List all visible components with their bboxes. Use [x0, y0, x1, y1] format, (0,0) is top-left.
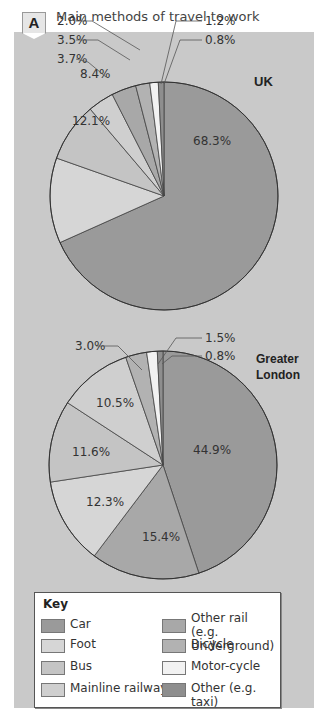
- legend-item-bicycle: Bicycle: [162, 637, 234, 653]
- legend-item-car: Car: [41, 617, 91, 633]
- slice-label: 44.9%: [193, 443, 231, 457]
- legend-title: Key: [43, 597, 68, 611]
- badge-pointer: [22, 33, 46, 39]
- swatch-bicycle: [162, 639, 186, 653]
- slice-label: 11.6%: [72, 445, 110, 459]
- legend: Key Car Foot Bus Mainline railway Other …: [34, 592, 281, 708]
- slice-label-outside: 1.2%: [205, 14, 236, 28]
- pie-uk-title: UK: [254, 74, 273, 89]
- pie-greater-london: 44.9%15.4%12.3%11.6%10.5%3.0%1.5%0.8%: [49, 331, 277, 579]
- legend-item-motorcycle: Motor-cycle: [162, 659, 260, 675]
- slice-label-outside: 3.7%: [57, 52, 88, 66]
- legend-item-foot: Foot: [41, 637, 96, 653]
- slice-label: 12.3%: [86, 495, 124, 509]
- slice-label: 12.1%: [72, 114, 110, 128]
- slice-label-outside: 0.8%: [205, 349, 236, 363]
- swatch-mainline: [41, 683, 65, 697]
- slice-label: 15.4%: [142, 530, 180, 544]
- slice-label: 68.3%: [193, 134, 231, 148]
- slice-label-outside: 1.5%: [205, 331, 236, 345]
- legend-item-mainline: Mainline railway: [41, 681, 167, 697]
- legend-item-other: Other (e.g. taxi): [162, 681, 280, 709]
- swatch-motorcycle: [162, 661, 186, 675]
- legend-item-bus: Bus: [41, 659, 92, 675]
- pie-london-title-1: Greater: [256, 352, 299, 366]
- pie-uk: 68.3%12.1%8.4%3.7%3.5%2.0%1.2%0.8%: [50, 14, 278, 310]
- slice-label: 10.5%: [96, 396, 134, 410]
- swatch-other: [162, 683, 186, 697]
- swatch-other-rail: [162, 619, 186, 633]
- slice-label: 8.4%: [80, 67, 111, 81]
- swatch-foot: [41, 639, 65, 653]
- slice-label-outside: 0.8%: [205, 33, 236, 47]
- pie-london-title-2: London: [256, 368, 300, 382]
- swatch-car: [41, 619, 65, 633]
- swatch-bus: [41, 661, 65, 675]
